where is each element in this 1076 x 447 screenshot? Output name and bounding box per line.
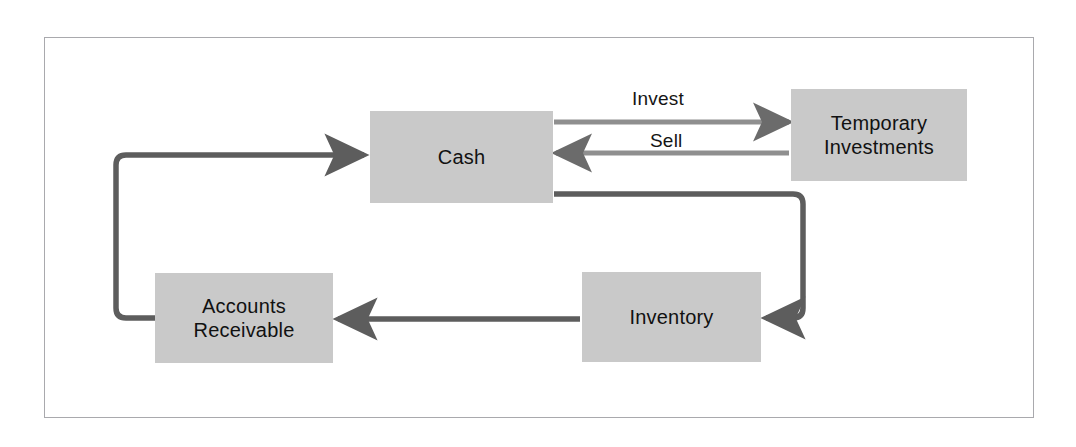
edge-layer: [0, 0, 1076, 447]
node-inventory[interactable]: Inventory: [582, 272, 761, 362]
node-temporary-investments[interactable]: Temporary Investments: [791, 89, 967, 181]
node-temporary-investments-label: Temporary Investments: [818, 111, 940, 160]
edge-label-invest: Invest: [632, 89, 684, 108]
diagram-canvas: Cash Temporary Investments Accounts Rece…: [0, 0, 1076, 447]
node-accounts-receivable-label: Accounts Receivable: [188, 294, 301, 343]
node-accounts-receivable[interactable]: Accounts Receivable: [155, 273, 333, 363]
node-cash[interactable]: Cash: [370, 111, 553, 203]
node-inventory-label: Inventory: [623, 305, 719, 329]
node-cash-label: Cash: [432, 145, 492, 169]
edge-label-sell: Sell: [650, 131, 682, 150]
